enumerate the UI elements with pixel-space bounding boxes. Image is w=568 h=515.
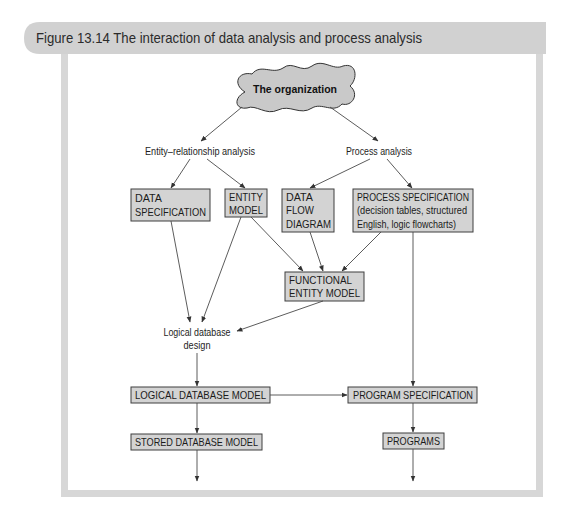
program-specification-box: PROGRAM SPECIFICATION <box>348 387 477 403</box>
box-line: (decision tables, structured <box>357 204 467 216</box>
box-line: LOGICAL DATABASE MODEL <box>135 389 266 401</box>
figure: Figure 13.14 The interaction of data ana… <box>0 0 568 515</box>
label-line: Logical database <box>164 326 231 338</box>
logical-database-model-box: LOGICAL DATABASE MODEL <box>131 387 270 403</box>
box-line: FUNCTIONAL <box>289 274 352 286</box>
box-line: English, logic flowcharts) <box>357 218 456 230</box>
box-line: DATA <box>135 192 163 204</box>
box-line: DIAGRAM <box>286 218 331 230</box>
box-line: PROGRAMS <box>387 435 440 447</box>
data-specification-box: DATA SPECIFICATION <box>131 189 210 221</box>
data-flow-diagram-box: DATA FLOW DIAGRAM <box>282 189 334 232</box>
figure-title: Figure 13.14 The interaction of data ana… <box>36 29 422 46</box>
box-line: SPECIFICATION <box>135 206 206 218</box>
er-analysis-label: Entity–relationship analysis <box>145 145 255 157</box>
entity-model-box: ENTITY MODEL <box>225 189 267 217</box>
process-specification-box: PROCESS SPECIFICATION (decision tables, … <box>353 189 473 232</box>
box-line: DATA <box>286 191 314 203</box>
stored-database-model-box: STORED DATABASE MODEL <box>131 434 262 450</box>
label-line: design <box>184 339 211 351</box>
process-analysis-label: Process analysis <box>346 145 412 157</box>
cloud-label: The organization <box>253 83 337 95</box>
box-line: ENTITY MODEL <box>289 287 360 299</box>
box-line: PROCESS SPECIFICATION <box>357 191 469 203</box>
box-line: FLOW <box>286 204 315 216</box>
figure-frame <box>65 48 540 494</box>
box-line: STORED DATABASE MODEL <box>135 436 258 448</box>
box-line: PROGRAM SPECIFICATION <box>353 389 473 401</box>
functional-entity-model-box: FUNCTIONAL ENTITY MODEL <box>285 272 364 301</box>
programs-box: PROGRAMS <box>383 433 444 449</box>
box-line: MODEL <box>229 204 263 216</box>
box-line: ENTITY <box>229 191 264 203</box>
